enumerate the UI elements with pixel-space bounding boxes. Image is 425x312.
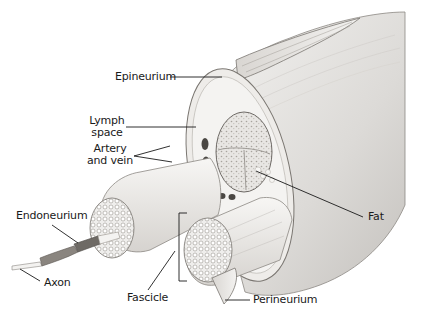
- label-perineurium: Perineurium: [253, 294, 317, 306]
- label-fat: Fat: [368, 211, 384, 223]
- leader-artery: [134, 146, 170, 156]
- leader-vein: [134, 156, 172, 162]
- endoneurium-sheath: [74, 236, 100, 252]
- artery: [202, 138, 209, 150]
- label-endoneurium: Endoneurium: [16, 210, 87, 222]
- label-epineurium: Epineurium: [115, 71, 176, 83]
- label-artery-and-vein: Artery and vein: [85, 143, 135, 167]
- label-artery-line2: and vein: [85, 155, 135, 167]
- myelin-segments: [40, 246, 78, 266]
- leader-axon: [20, 269, 40, 281]
- leader-endoneurium: [52, 225, 78, 243]
- label-fascicle: Fascicle: [127, 292, 168, 304]
- label-axon: Axon: [44, 277, 71, 289]
- nerve-illustration: [0, 0, 425, 312]
- label-lymph-space-line2: space: [87, 127, 127, 139]
- label-lymph-space: Lymph space: [87, 115, 127, 139]
- leader-fascicle: [148, 251, 175, 290]
